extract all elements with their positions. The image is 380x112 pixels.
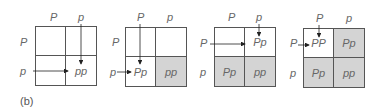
figure-caption: (b) [20,95,33,107]
combination-arrows [0,0,380,112]
